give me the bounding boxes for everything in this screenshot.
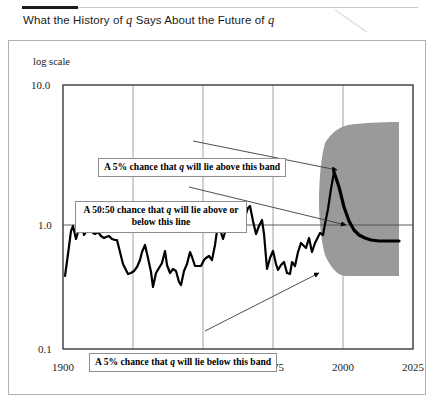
y-axis-tick-1: 1.0 — [38, 219, 52, 231]
scan-artifact-mark — [333, 8, 371, 34]
figure-panel: log scale 10.0 1.0 0.1 1900 1925 1950 19… — [8, 40, 426, 395]
annotation-lower-band-pre: A 5% chance that — [95, 356, 170, 367]
annotation-upper-band: A 5% chance that q will lie above this b… — [98, 158, 286, 177]
annotation-upper-band-post: will lie above this band — [184, 161, 280, 172]
x-axis-tick-2000: 2000 — [332, 361, 355, 373]
annotation-lower-band-post: will lie below this band — [175, 356, 271, 367]
annotation-lower-band: A 5% chance that q will lie below this b… — [89, 353, 277, 372]
leader-line-lower-band — [205, 273, 319, 331]
annotation-upper-band-pre: A 5% chance that — [104, 161, 179, 172]
page-title-mid: Says About the Future of — [132, 14, 268, 26]
y-axis-tick-0-1: 0.1 — [38, 343, 52, 355]
page-title-variable-q-2: q — [268, 13, 274, 27]
page-title-pre: What the History of — [23, 14, 126, 26]
page-title: What the History of q Says About the Fut… — [23, 13, 274, 28]
x-axis-tick-1900: 1900 — [52, 361, 75, 373]
x-axis-tick-2025: 2025 — [402, 361, 425, 373]
header-rule — [78, 7, 418, 8]
header-rule-accent — [22, 6, 78, 9]
annotation-median-line: A 50:50 chance that q will lie above or … — [75, 201, 247, 233]
confidence-fan-band — [319, 122, 399, 276]
log-scale-note: log scale — [33, 56, 70, 67]
y-axis-tick-10: 10.0 — [31, 79, 51, 91]
annotation-median-pre: A 50:50 chance that — [83, 204, 166, 215]
